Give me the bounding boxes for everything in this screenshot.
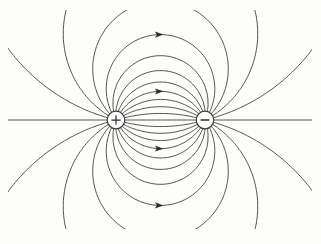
- dipole-field-diagram: [0, 0, 321, 244]
- negative-charge: [196, 111, 214, 129]
- figure-background: [0, 0, 321, 244]
- positive-charge: [107, 111, 125, 129]
- field-lines-canvas: [0, 0, 321, 244]
